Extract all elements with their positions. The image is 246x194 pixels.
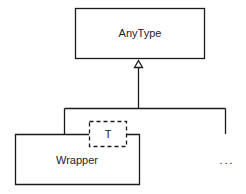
- template-parameter-label: T: [105, 128, 112, 140]
- template-parameter: T: [90, 122, 127, 147]
- class-anytype[interactable]: AnyType: [76, 9, 205, 59]
- more-subclasses-ellipsis: ...: [219, 154, 234, 166]
- class-anytype-label: AnyType: [119, 27, 162, 39]
- class-wrapper[interactable]: Wrapper T: [16, 122, 140, 185]
- generalization-connector: [65, 61, 226, 135]
- class-wrapper-label: Wrapper: [56, 154, 98, 166]
- uml-diagram: AnyType Wrapper T ...: [0, 0, 246, 194]
- hollow-triangle-arrowhead-icon: [135, 61, 143, 68]
